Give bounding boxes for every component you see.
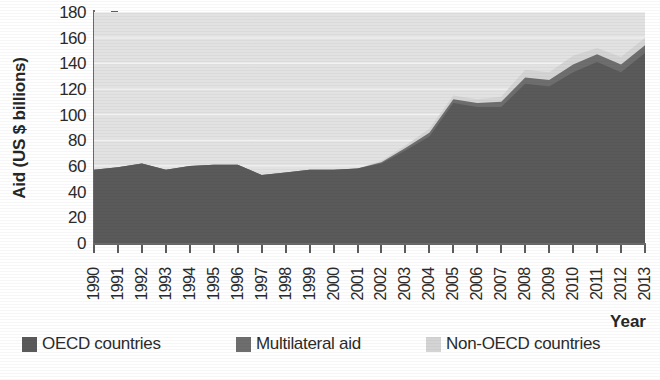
- x-tick-mark-1990: [93, 245, 95, 253]
- x-tick-mark-2007: [500, 245, 502, 253]
- area-series-oecd-countries: [94, 53, 645, 243]
- y-axis-tick-labels: 020406080100120140160180: [24, 0, 86, 256]
- y-tick-label-100: 100: [26, 107, 86, 124]
- legend-swatch-multilateral-aid: [236, 337, 251, 352]
- aid-area-chart-figure: Aid (US $ billions) 02040608010012014016…: [0, 0, 660, 380]
- y-tick-label-120: 120: [26, 81, 86, 98]
- x-tick-mark-2001: [357, 245, 359, 253]
- figure-caption: [0, 364, 660, 380]
- x-tick-mark-2003: [404, 245, 406, 253]
- x-tick-label-1996: 1996: [230, 256, 246, 312]
- plot-area: [94, 12, 645, 243]
- x-tick-label-1997: 1997: [254, 256, 270, 312]
- chart-legend: OECD countries Multilateral aid Non-OECD…: [22, 334, 642, 358]
- x-tick-label-2013: 2013: [637, 256, 653, 312]
- x-axis-title: Year: [610, 312, 646, 332]
- x-tick-label-1995: 1995: [206, 256, 222, 312]
- x-tick-label-1994: 1994: [182, 256, 198, 312]
- x-tick-label-2011: 2011: [589, 256, 605, 312]
- y-tick-label-60: 60: [26, 158, 86, 175]
- legend-swatch-oecd-countries: [22, 337, 37, 352]
- x-tick-mark-2005: [452, 245, 454, 253]
- stacked-area-series: [94, 12, 645, 243]
- x-tick-mark-1999: [309, 245, 311, 253]
- y-tick-label-40: 40: [26, 184, 86, 201]
- x-tick-label-1991: 1991: [110, 256, 126, 312]
- y-tick-label-180: 180: [26, 4, 86, 21]
- x-tick-mark-2010: [572, 245, 574, 253]
- x-tick-mark-1991: [117, 245, 119, 253]
- x-tick-mark-2013: [644, 245, 646, 253]
- x-tick-label-2004: 2004: [421, 256, 437, 312]
- x-tick-mark-1994: [189, 245, 191, 253]
- x-tick-label-2007: 2007: [493, 256, 509, 312]
- x-tick-label-2009: 2009: [541, 256, 557, 312]
- x-tick-label-2002: 2002: [373, 256, 389, 312]
- legend-label-multilateral-aid: Multilateral aid: [256, 334, 361, 354]
- x-tick-label-2003: 2003: [397, 256, 413, 312]
- y-tick-label-20: 20: [26, 209, 86, 226]
- x-tick-mark-1996: [237, 245, 239, 253]
- x-tick-mark-2000: [333, 245, 335, 253]
- x-tick-mark-2004: [428, 245, 430, 253]
- x-tick-label-1998: 1998: [278, 256, 294, 312]
- x-tick-mark-2002: [380, 245, 382, 253]
- x-tick-label-1999: 1999: [302, 256, 318, 312]
- x-tick-mark-2006: [476, 245, 478, 253]
- x-tick-label-2005: 2005: [445, 256, 461, 312]
- x-tick-label-1993: 1993: [158, 256, 174, 312]
- x-tick-mark-2012: [620, 245, 622, 253]
- x-tick-label-2000: 2000: [326, 256, 342, 312]
- x-axis-tick-marks: [94, 245, 645, 254]
- y-tick-label-160: 160: [26, 30, 86, 47]
- y-tick-label-0: 0: [26, 235, 86, 252]
- x-tick-label-2012: 2012: [613, 256, 629, 312]
- x-tick-label-2006: 2006: [469, 256, 485, 312]
- x-tick-label-2008: 2008: [517, 256, 533, 312]
- x-tick-mark-1998: [285, 245, 287, 253]
- legend-item-oecd-countries: OECD countries: [22, 334, 161, 354]
- x-tick-mark-2011: [596, 245, 598, 253]
- legend-item-non-oecd-countries: Non-OECD countries: [426, 334, 600, 354]
- y-tick-label-80: 80: [26, 132, 86, 149]
- legend-swatch-non-oecd-countries: [426, 337, 441, 352]
- x-tick-mark-1997: [261, 245, 263, 253]
- x-axis-tick-labels: 1990199119921993199419951996199719981999…: [94, 254, 645, 314]
- x-tick-label-2001: 2001: [350, 256, 366, 312]
- x-tick-mark-1992: [141, 245, 143, 253]
- x-tick-label-2010: 2010: [565, 256, 581, 312]
- x-tick-label-1992: 1992: [134, 256, 150, 312]
- legend-label-non-oecd-countries: Non-OECD countries: [446, 334, 600, 354]
- x-tick-mark-1993: [165, 245, 167, 253]
- legend-item-multilateral-aid: Multilateral aid: [236, 334, 361, 354]
- x-tick-mark-1995: [213, 245, 215, 253]
- x-tick-mark-2009: [548, 245, 550, 253]
- legend-label-oecd-countries: OECD countries: [42, 334, 161, 354]
- x-tick-mark-2008: [524, 245, 526, 253]
- y-tick-label-140: 140: [26, 55, 86, 72]
- x-tick-label-1990: 1990: [86, 256, 102, 312]
